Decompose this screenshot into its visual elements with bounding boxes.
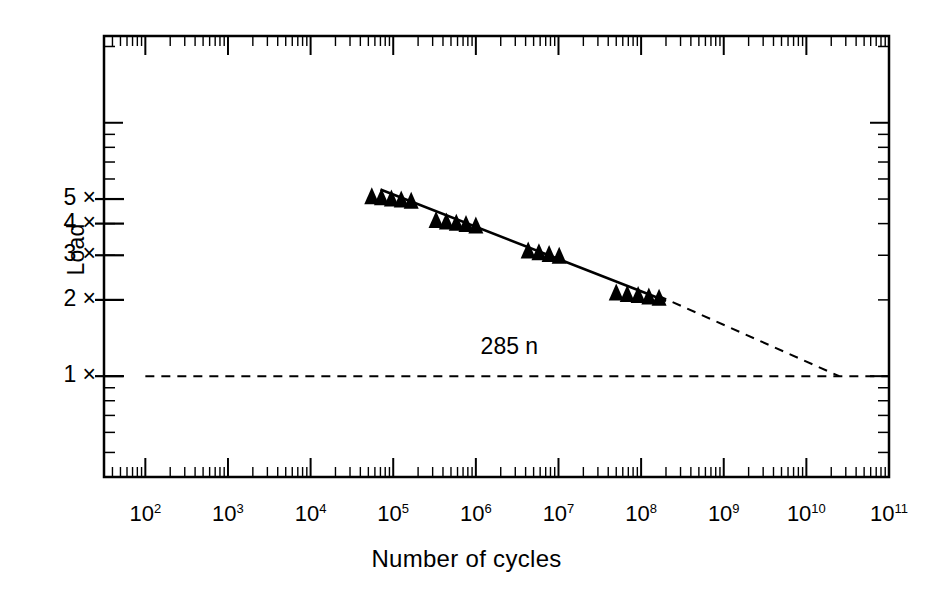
x-axis-ticks-top	[112, 36, 889, 55]
x-axis-tick-label: 103	[193, 501, 263, 527]
regression-line	[380, 190, 666, 301]
x-axis-tick-label: 102	[110, 501, 180, 527]
y-axis-tick-label: 2 ×	[26, 285, 96, 312]
x-axis-ticks-bottom	[112, 458, 889, 477]
chart-container: Load 1 ×2 ×3 ×4 ×5 × 1021031041051061071…	[0, 0, 933, 592]
y-axis-tick-label: 4 ×	[26, 209, 96, 236]
data-point-triangle	[609, 283, 624, 300]
extrapolation-line	[658, 296, 839, 377]
data-markers	[364, 187, 666, 305]
x-axis-tick-label: 1011	[854, 501, 924, 527]
x-axis-tick-label: 104	[276, 501, 346, 527]
y-axis-tick-label: 5 ×	[26, 184, 96, 211]
y-axis-ticks-left	[95, 46, 124, 477]
y-axis-ticks-right	[870, 46, 889, 477]
load-annotation: 285 n	[481, 333, 539, 360]
x-axis-tick-label: 105	[358, 501, 428, 527]
x-axis-tick-label: 109	[689, 501, 759, 527]
data-point-triangle	[552, 247, 567, 264]
plot-frame	[104, 36, 889, 477]
x-axis-title: Number of cycles	[0, 545, 933, 573]
x-axis-tick-label: 106	[441, 501, 511, 527]
y-axis-tick-label: 3 ×	[26, 240, 96, 267]
y-axis-tick-label: 1 ×	[26, 361, 96, 388]
x-axis-tick-label: 108	[606, 501, 676, 527]
x-axis-tick-label: 107	[523, 501, 593, 527]
x-axis-tick-label: 1010	[771, 501, 841, 527]
